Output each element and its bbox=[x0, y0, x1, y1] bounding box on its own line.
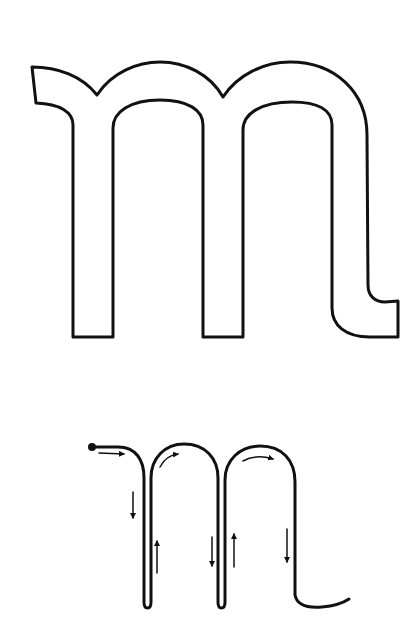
guide-stroke-path bbox=[92, 444, 349, 608]
arrow-arch-icon bbox=[243, 457, 273, 461]
stroke-guide-letter-m bbox=[88, 443, 349, 608]
outline-letter-m bbox=[32, 62, 398, 337]
letter-m-diagram: Handwriting guide for lowercase letter m… bbox=[0, 0, 419, 636]
arrow-right-icon bbox=[99, 453, 124, 454]
arrow-arch-icon bbox=[160, 454, 178, 467]
outline-letter-m-shape bbox=[32, 62, 398, 337]
direction-arrows bbox=[99, 453, 287, 573]
